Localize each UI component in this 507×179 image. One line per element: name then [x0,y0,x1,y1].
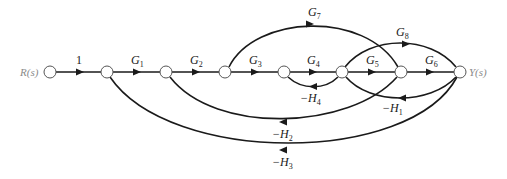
node-5 [278,66,290,78]
gain-label-g3: G3 [249,53,262,69]
node-2 [101,66,113,78]
gain-label-h4: −H4 [300,91,321,107]
gain-subscript: 2 [199,60,203,69]
edge-h1 [346,77,456,98]
arrow-left-icon [398,95,406,102]
gain-symbol: G [396,25,405,39]
node-6 [336,66,348,78]
node-7 [395,66,407,78]
arrow-right-icon [402,41,410,48]
edge-h2 [170,77,397,119]
gain-symbol: G [307,53,316,67]
arrow-left-icon [309,83,317,90]
gain-label-g2: G2 [190,53,203,69]
gain-subscript: 1 [399,108,403,117]
gain-label-g6: G6 [425,53,438,69]
gain-symbol: −H [382,101,400,115]
gain-label-1: 1 [76,53,82,67]
gain-symbol: G [190,53,199,67]
gain-subscript: 5 [375,60,379,69]
gain-symbol: −H [272,155,290,169]
gain-label-h2: −H2 [272,127,293,143]
arrow-right-icon [192,69,200,76]
gain-label-g1: G1 [131,53,144,69]
node-output [454,66,466,78]
gain-subscript: 8 [405,32,409,41]
gain-symbol: G [131,53,140,67]
gain-label-g7: G7 [308,5,321,21]
gain-symbol: G [366,53,375,67]
arrow-right-icon [309,69,317,76]
signal-flow-graph: R(s) Y(s) 1 G1 G2 G3 G4 G5 G6 G7 G8 −H4 … [0,0,507,179]
gain-subscript: 4 [316,60,320,69]
gain-subscript: 2 [289,134,293,143]
gain-label-g8: G8 [396,25,409,41]
gain-label-g5: G5 [366,53,379,69]
arrow-right-icon [426,69,434,76]
arrow-right-icon [133,69,141,76]
gain-symbol: −H [272,127,290,141]
gain-label-h3: −H3 [272,155,293,171]
edge-g8 [345,43,456,67]
gain-subscript: 4 [317,98,321,107]
node-4 [219,66,231,78]
gain-symbol: G [308,5,317,19]
arrow-right-icon [76,69,84,76]
arrow-left-icon [279,147,287,154]
output-label: Y(s) [469,66,487,79]
gain-subscript: 3 [289,162,293,171]
gain-symbol: G [249,53,258,67]
gain-subscript: 3 [258,60,262,69]
gain-label-h1: −H1 [382,101,403,117]
gain-subscript: 6 [434,60,438,69]
gain-symbol: G [425,53,434,67]
gain-subscript: 1 [140,60,144,69]
arrow-right-icon [368,69,376,76]
input-label: R(s) [19,66,39,79]
node-input [44,66,56,78]
arrow-right-icon [251,69,259,76]
gain-symbol: −H [300,91,318,105]
gain-subscript: 7 [317,12,321,21]
forward-path [56,69,454,76]
node-3 [160,66,172,78]
arrow-left-icon [279,119,287,126]
gain-label-g4: G4 [307,53,320,69]
